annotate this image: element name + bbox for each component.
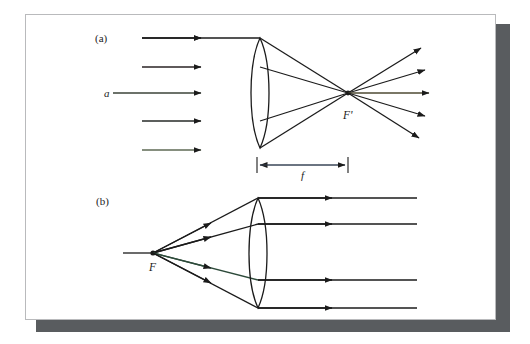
source-ray-4-head: [153, 253, 211, 268]
converging-ray-1: [260, 38, 348, 93]
focal-point-label-b: F: [149, 262, 156, 274]
source-ray-1-head: [153, 223, 211, 253]
converging-ray-5: [260, 93, 348, 148]
panel-a-label: (a): [95, 33, 107, 44]
figure-page: (a) (b) a F' F f: [0, 0, 530, 344]
converging-ray-2: [260, 67, 348, 93]
diverging-ray-1: [348, 48, 421, 93]
focal-point-label-a: F': [343, 110, 352, 122]
optics-diagram: [25, 14, 496, 320]
panel-b-group: [123, 198, 425, 308]
panel-a-group: [113, 38, 429, 173]
diverging-ray-4: [348, 93, 425, 116]
converging-ray-4: [260, 93, 348, 121]
panel-b-label: (b): [96, 196, 109, 207]
focal-length-label: f: [301, 170, 304, 181]
diverging-ray-2: [348, 70, 425, 93]
axis-ray-label-a: a: [104, 88, 110, 99]
source-ray-2-head: [153, 237, 211, 253]
source-ray-5-head: [153, 253, 211, 283]
diverging-ray-5: [348, 93, 419, 138]
